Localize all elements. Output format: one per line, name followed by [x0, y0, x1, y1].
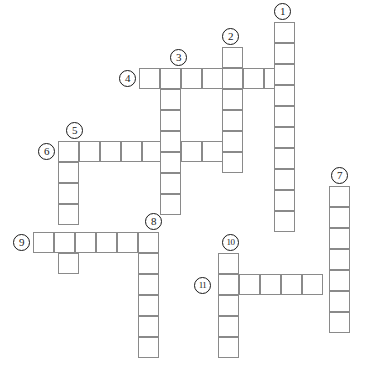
cell-r8-c15[interactable]: [329, 207, 350, 228]
cell-r8-c12[interactable]: [274, 190, 295, 211]
cell-r9-c15[interactable]: [329, 228, 350, 249]
cell-r11-c10[interactable]: [218, 253, 239, 274]
cell-r1-c12[interactable]: [274, 43, 295, 64]
cell-r6-c12[interactable]: [274, 148, 295, 169]
cell-r12-c13[interactable]: [281, 274, 302, 295]
cell-r8-c6[interactable]: [160, 194, 181, 215]
cell-r13-c15[interactable]: [329, 312, 350, 333]
cell-r13-c10[interactable]: [218, 295, 239, 316]
cell-r4-c6[interactable]: [160, 110, 181, 131]
cell-r2-c8[interactable]: [202, 68, 223, 89]
crossword-puzzle-grid: 1234567891011: [0, 0, 366, 392]
clue-number-7[interactable]: 7: [331, 167, 348, 184]
cell-r5-c6b[interactable]: [160, 131, 181, 152]
clue-number-3[interactable]: 3: [170, 49, 187, 66]
cell-r2-c7[interactable]: [181, 68, 202, 89]
cell-r7-c15[interactable]: [329, 186, 350, 207]
cell-r5-c9[interactable]: [222, 131, 243, 152]
cell-r7-c6[interactable]: [160, 173, 181, 194]
cell-r5-c5[interactable]: [121, 141, 142, 162]
cell-r10-c6[interactable]: [138, 232, 159, 253]
cell-r2-c9[interactable]: [222, 68, 243, 89]
clue-number-5[interactable]: 5: [66, 122, 83, 139]
cell-r11-c2[interactable]: [58, 253, 79, 274]
cell-r7-c12[interactable]: [274, 169, 295, 190]
clue-number-2[interactable]: 2: [222, 28, 239, 45]
cell-r7-c2[interactable]: [58, 183, 79, 204]
cell-r5-c4[interactable]: [100, 141, 121, 162]
cell-r12-c14[interactable]: [302, 274, 323, 295]
cell-r10-c3[interactable]: [75, 232, 96, 253]
cell-r5-c7[interactable]: [181, 141, 202, 162]
cell-r0-c12[interactable]: [274, 22, 295, 43]
cell-r14-c10[interactable]: [218, 316, 239, 337]
cell-r2-c10[interactable]: [243, 68, 264, 89]
cell-r4-c9[interactable]: [222, 110, 243, 131]
cell-r15-c6[interactable]: [138, 337, 159, 358]
cell-r10-c4[interactable]: [96, 232, 117, 253]
cell-r10-c5[interactable]: [117, 232, 138, 253]
cell-r2-c12[interactable]: [274, 64, 295, 85]
cell-r5-c2[interactable]: [58, 141, 79, 162]
cell-r12-c6[interactable]: [138, 274, 159, 295]
cell-r6-c2[interactable]: [58, 162, 79, 183]
cell-r14-c6[interactable]: [138, 316, 159, 337]
clue-number-11[interactable]: 11: [194, 277, 211, 294]
cell-r3-c9[interactable]: [222, 89, 243, 110]
cell-r5-c3[interactable]: [79, 141, 100, 162]
clue-number-6[interactable]: 6: [38, 143, 55, 160]
cell-r6-c6[interactable]: [160, 152, 181, 173]
clue-number-1[interactable]: 1: [274, 3, 291, 20]
clue-number-4[interactable]: 4: [119, 70, 136, 87]
cell-r2-c6[interactable]: [160, 68, 181, 89]
cell-r8-c2[interactable]: [58, 204, 79, 225]
clue-number-9[interactable]: 9: [13, 234, 30, 251]
cell-r11-c15[interactable]: [329, 270, 350, 291]
cell-r12-c12[interactable]: [260, 274, 281, 295]
cell-r2-c5[interactable]: [139, 68, 160, 89]
cell-r12-c10[interactable]: [218, 274, 239, 295]
cell-r9-c12[interactable]: [274, 211, 295, 232]
cell-r12-c15[interactable]: [329, 291, 350, 312]
cell-r12-c11[interactable]: [239, 274, 260, 295]
clue-number-8[interactable]: 8: [145, 213, 162, 230]
cell-r10-c2[interactable]: [54, 232, 75, 253]
cell-r3-c12[interactable]: [274, 85, 295, 106]
cell-r11-c6[interactable]: [138, 253, 159, 274]
cell-r1-c9[interactable]: [222, 47, 243, 68]
cell-r3-c6[interactable]: [160, 89, 181, 110]
cell-r6-c9[interactable]: [222, 152, 243, 173]
cell-r10-c1[interactable]: [33, 232, 54, 253]
cell-r15-c10[interactable]: [218, 337, 239, 358]
cell-r10-c15[interactable]: [329, 249, 350, 270]
cell-r13-c6[interactable]: [138, 295, 159, 316]
clue-number-10[interactable]: 10: [222, 234, 239, 251]
cell-r4-c12[interactable]: [274, 106, 295, 127]
cell-r5-c8[interactable]: [202, 141, 223, 162]
cell-r5-c12[interactable]: [274, 127, 295, 148]
